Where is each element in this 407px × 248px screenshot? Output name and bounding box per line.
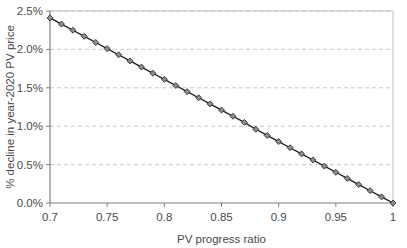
y-tick-label: 0.5%	[17, 159, 43, 171]
y-axis-title: % decline in year-2020 PV price	[4, 25, 16, 189]
x-tick-label: 1	[390, 211, 396, 223]
x-axis-title: PV progress ratio	[177, 233, 266, 245]
x-axis-tick-labels: 0.70.750.80.850.90.951	[42, 211, 396, 223]
line-chart: 0.0%0.5%1.0%1.5%2.0%2.5% 0.70.750.80.850…	[0, 0, 407, 248]
x-tick-label: 0.95	[325, 211, 347, 223]
x-tick-label: 0.8	[156, 211, 172, 223]
x-tick-label: 0.7	[42, 211, 58, 223]
x-tick-label: 0.85	[210, 211, 232, 223]
y-tick-label: 1.0%	[17, 120, 43, 132]
chart-container: 0.0%0.5%1.0%1.5%2.0%2.5% 0.70.750.80.850…	[0, 0, 407, 248]
x-tick-label: 0.9	[271, 211, 287, 223]
y-tick-label: 1.5%	[17, 82, 43, 94]
y-tick-label: 0.0%	[17, 197, 43, 209]
y-tick-label: 2.0%	[17, 43, 43, 55]
x-tick-label: 0.75	[96, 211, 118, 223]
y-tick-label: 2.5%	[17, 5, 43, 17]
